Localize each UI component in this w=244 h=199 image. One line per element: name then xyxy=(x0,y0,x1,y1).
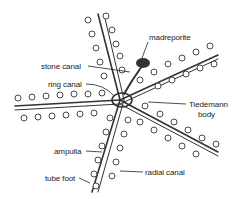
label-madreporite: madreporite xyxy=(149,33,191,42)
label-tiedemann: Tiedemann xyxy=(189,100,228,109)
label-tube-foot: tube foot xyxy=(45,174,75,183)
label-ampulla: ampulla xyxy=(54,147,81,156)
leader-tube-foot xyxy=(79,178,90,183)
label-stone-canal: stone canal xyxy=(41,62,81,71)
leader-madreporite xyxy=(142,42,148,58)
madreporite xyxy=(136,58,150,68)
leader-tiedemann-body xyxy=(148,102,186,104)
label-tiedemann-body: body xyxy=(198,110,215,119)
label-radial-canal: radial canal xyxy=(145,168,185,177)
leader-ampulla xyxy=(86,151,102,152)
label-ring-canal: ring canal xyxy=(48,80,82,89)
leader-radial-canal xyxy=(120,171,143,172)
